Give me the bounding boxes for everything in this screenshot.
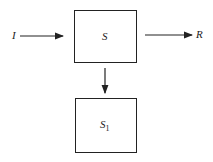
node-s-label: S bbox=[102, 30, 108, 42]
node-s1-label: S1 bbox=[100, 118, 110, 133]
input-label: I bbox=[12, 29, 16, 41]
diagram-canvas bbox=[0, 0, 213, 162]
output-label: R bbox=[196, 28, 203, 40]
